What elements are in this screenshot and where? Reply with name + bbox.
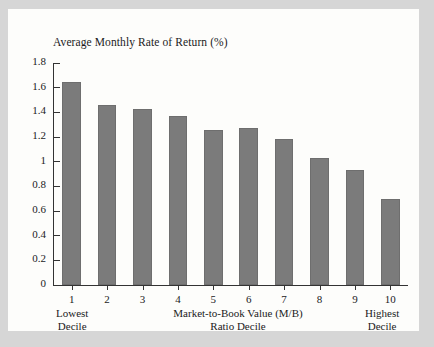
x-tick-mark <box>249 285 250 290</box>
caption-highest-line2: Decile <box>365 320 399 333</box>
x-axis-label-line2: Ratio Decile <box>143 320 333 333</box>
bar <box>346 170 364 285</box>
x-tick-label: 6 <box>246 293 252 305</box>
y-tick-label: 0.6 <box>6 203 46 215</box>
x-axis-caption-lowest: Lowest Decile <box>56 307 88 333</box>
caption-lowest-line2: Decile <box>56 320 88 333</box>
x-tick-mark <box>320 285 321 290</box>
chart-title: Average Monthly Rate of Return (%) <box>53 36 228 48</box>
x-tick-label: 3 <box>140 293 146 305</box>
plot-area: 00.20.40.60.811.21.41.61.8 12345678910 <box>53 63 408 286</box>
bar <box>133 109 151 285</box>
x-tick-label: 7 <box>281 293 287 305</box>
y-tick-label: 0.2 <box>6 252 46 264</box>
x-tick-label: 10 <box>385 293 396 305</box>
x-axis-caption-highest: Highest Decile <box>365 307 399 333</box>
x-tick-label: 4 <box>175 293 181 305</box>
bar <box>275 139 293 285</box>
y-tick-label: 0.4 <box>6 228 46 240</box>
caption-lowest-line1: Lowest <box>56 307 88 320</box>
y-tick-label: 1.6 <box>6 80 46 92</box>
x-tick-label: 5 <box>211 293 217 305</box>
bar <box>98 105 116 285</box>
bar <box>204 130 222 285</box>
y-tick-label: 1.8 <box>6 55 46 67</box>
bar <box>169 116 187 285</box>
bar-series <box>54 63 408 285</box>
x-tick-label: 8 <box>317 293 323 305</box>
bar <box>239 128 257 285</box>
figure-root: Average Monthly Rate of Return (%) 00.20… <box>0 0 434 347</box>
x-axis-label: Market-to-Book Value (M/B) Ratio Decile <box>143 307 333 333</box>
x-tick-mark <box>143 285 144 290</box>
x-axis-label-line1: Market-to-Book Value (M/B) <box>143 307 333 320</box>
y-tick-label: 1.2 <box>6 129 46 141</box>
x-tick-label: 9 <box>352 293 358 305</box>
x-tick-mark <box>213 285 214 290</box>
x-tick-mark <box>72 285 73 290</box>
x-tick-mark <box>390 285 391 290</box>
y-tick-label: 1.4 <box>6 104 46 116</box>
x-tick-mark <box>107 285 108 290</box>
x-tick-label: 2 <box>104 293 110 305</box>
bar <box>62 82 80 286</box>
bar <box>310 158 328 285</box>
y-tick-label: 1 <box>6 154 46 166</box>
chart-panel: Average Monthly Rate of Return (%) 00.20… <box>8 9 419 331</box>
x-tick-label: 1 <box>69 293 75 305</box>
y-tick-label: 0.8 <box>6 178 46 190</box>
x-tick-mark <box>284 285 285 290</box>
x-tick-mark <box>178 285 179 290</box>
x-tick-mark <box>355 285 356 290</box>
y-tick-label: 0 <box>6 277 46 289</box>
caption-highest-line1: Highest <box>365 307 399 320</box>
bar <box>381 199 399 285</box>
